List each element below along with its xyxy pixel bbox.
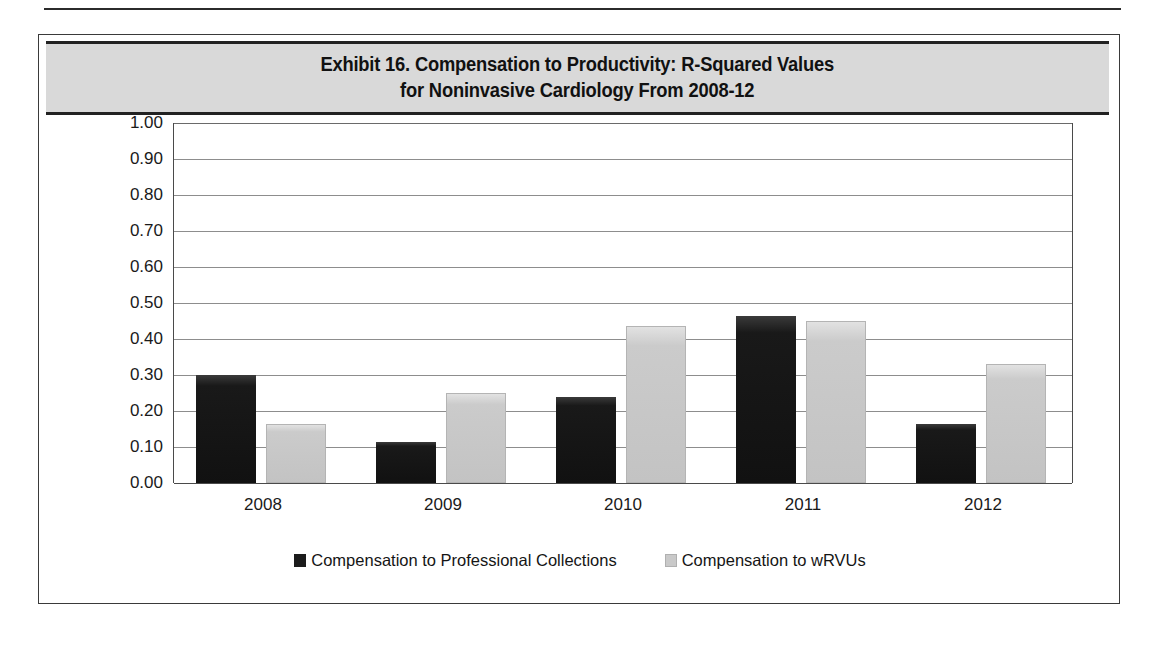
legend-swatch-icon (665, 554, 677, 567)
chart-figure: Exhibit 16. Compensation to Productivity… (38, 34, 1120, 604)
x-axis-tick-label: 2011 (713, 495, 893, 515)
chart-title-line-1: Exhibit 16. Compensation to Productivity… (321, 52, 835, 78)
legend-swatch-icon (294, 554, 306, 567)
gridline (174, 483, 1072, 484)
legend-label: Compensation to wRVUs (682, 551, 866, 570)
y-axis-tick-label: 0.20 (130, 401, 163, 421)
y-axis-tick-label: 1.00 (130, 113, 163, 133)
legend-label: Compensation to Professional Collections (311, 551, 616, 570)
bar-group (354, 123, 534, 483)
legend-item: Compensation to Professional Collections (294, 551, 616, 570)
bar-group (174, 123, 354, 483)
plot-wrapper: 1.000.900.800.700.600.500.400.300.200.10… (39, 123, 1121, 553)
x-axis-tick-label: 2012 (893, 495, 1073, 515)
y-axis-tick-label: 0.80 (130, 185, 163, 205)
y-axis-tick-label: 0.70 (130, 221, 163, 241)
plot-area (173, 123, 1073, 483)
bar-group (714, 123, 894, 483)
y-axis-tick-label: 0.90 (130, 149, 163, 169)
chart-legend: Compensation to Professional Collections… (39, 551, 1121, 570)
bars-layer (174, 123, 1072, 483)
legend-item: Compensation to wRVUs (665, 551, 866, 570)
x-axis-tick-label: 2008 (173, 495, 353, 515)
y-axis-tick-label: 0.10 (130, 437, 163, 457)
y-axis-tick-label: 0.60 (130, 257, 163, 277)
bar (266, 424, 326, 483)
page-top-rule (44, 8, 1121, 10)
bar (556, 397, 616, 483)
bar (916, 424, 976, 483)
y-axis-tick-label: 0.50 (130, 293, 163, 313)
x-axis-tick-label: 2010 (533, 495, 713, 515)
chart-title: Exhibit 16. Compensation to Productivity… (321, 52, 835, 103)
y-axis-tick-label: 0.40 (130, 329, 163, 349)
bar (986, 364, 1046, 483)
bar-group (534, 123, 714, 483)
y-axis-tick-label: 0.00 (130, 473, 163, 493)
y-axis-tick-label: 0.30 (130, 365, 163, 385)
bar (626, 326, 686, 483)
x-axis: 20082009201020112012 (173, 495, 1073, 525)
bar (376, 442, 436, 483)
x-axis-tick-label: 2009 (353, 495, 533, 515)
bar-group (894, 123, 1074, 483)
bar (446, 393, 506, 483)
y-axis: 1.000.900.800.700.600.500.400.300.200.10… (75, 123, 171, 483)
chart-title-band: Exhibit 16. Compensation to Productivity… (46, 41, 1109, 115)
bar (196, 375, 256, 483)
chart-title-line-2: for Noninvasive Cardiology From 2008-12 (321, 78, 835, 104)
bar (736, 316, 796, 483)
bar (806, 321, 866, 483)
